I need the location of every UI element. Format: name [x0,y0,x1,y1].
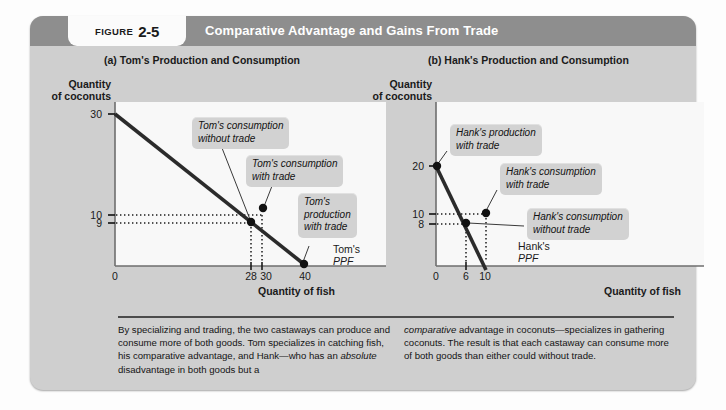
panel-b-ppf-annotation: Hank'sPPF [518,240,550,264]
panel-b-ppf-owner: Hank's [518,240,550,252]
caption-left-text-2: disadvantage in both goods but a [118,364,259,375]
panel-b-ytick-label-20: 20 [396,160,424,172]
panel-b-x-axis-label: Quantity of fish [604,285,681,297]
caption-divider [118,316,674,318]
panel-b-callout-production-with-trade: Hank's production with trade [450,124,542,156]
panel-b-leader-consumption-with [487,190,497,209]
panel-b-callout-consumption-without-trade: Hank's consumption without trade [527,208,629,240]
caption-right-emphasis: comparative [404,324,456,335]
panel-b-point-consumption-without-trade [462,219,470,227]
panel-b-point-production-with-trade [433,162,441,170]
caption-left-emphasis: absolute [340,350,376,361]
panel-b-xtick-label-10: 10 [474,270,496,282]
panel-b-point-consumption-with-trade [482,209,490,217]
panel-b-xtick-label-0: 0 [425,270,447,282]
caption-left-column: By specializing and trading, the two cas… [118,323,390,376]
caption-right-column: comparative advantage in coconuts—specia… [404,323,676,363]
panel-b-ytick-label-8: 8 [396,218,424,230]
panel-b-ppf-acronym: PPF [518,252,538,264]
panel-b-callout-consumption-with-trade: Hank's consumption with trade [500,163,602,195]
panel-b-ppf-line [436,166,486,270]
figure-container: Figure 2-5 Comparative Advantage and Gai… [0,0,726,410]
panel-b-leader-consumption-without [468,223,524,226]
